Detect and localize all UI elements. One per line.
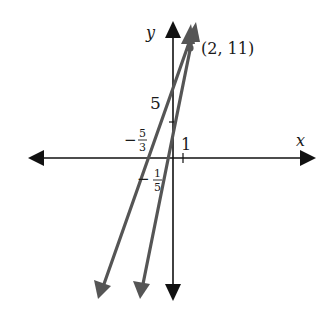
x-axis-label: x [296, 131, 305, 150]
intersection-label: (2, 11) [201, 39, 254, 58]
y-tick-label: 5 [150, 93, 161, 113]
x-tick-label: 1 [181, 135, 191, 154]
x-axis [28, 150, 316, 166]
x-axis-right-arrow-icon [300, 150, 316, 166]
y-axis-top-arrow-icon [165, 21, 181, 38]
svg-text:1: 1 [154, 167, 161, 180]
svg-text:−: − [137, 170, 150, 188]
x-intercept-label-b: − 1 5 [137, 167, 162, 194]
x-intercept-label-a: − 5 3 [124, 127, 147, 154]
x-axis-left-arrow-icon [28, 150, 44, 166]
line-a-arrow-icon [94, 280, 111, 299]
svg-text:3: 3 [139, 141, 146, 154]
svg-text:5: 5 [154, 181, 161, 194]
y-axis-label: y [145, 23, 156, 42]
svg-text:5: 5 [139, 127, 146, 140]
svg-text:−: − [124, 131, 137, 149]
y-axis-bottom-arrow-icon [165, 284, 181, 301]
coordinate-graph: y x (2, 11) 5 1 − 5 3 − 1 5 [0, 0, 335, 314]
line-b-arrow-icon [133, 281, 150, 299]
intersection-point [186, 44, 193, 51]
line-b-top-arrow-icon [181, 24, 195, 44]
